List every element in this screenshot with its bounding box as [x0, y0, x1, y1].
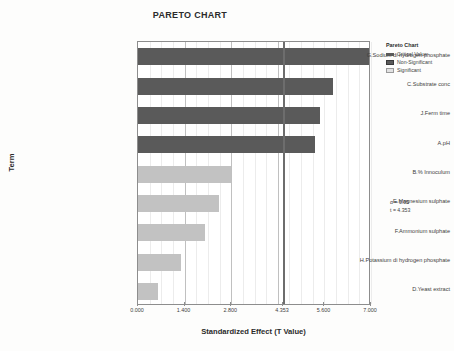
critical-swatch-icon [386, 53, 394, 56]
x-axis-tick-label: 0.000 [130, 307, 144, 313]
alpha-t-annotation: α = 0.05 t = 4.353 [390, 199, 410, 215]
x-axis-tick-mark [230, 302, 231, 306]
legend-item-label: Non-Significant [397, 59, 432, 65]
x-axis-tick-mark [184, 302, 185, 306]
y-axis-tick-label: D.Yeast extract [322, 286, 454, 292]
sig-swatch-icon [386, 68, 394, 73]
nonsig-swatch-icon [386, 60, 394, 65]
legend-items: Critical ValueNon-SignificantSignificant [386, 51, 452, 73]
legend-item-label: Critical Value [397, 51, 427, 57]
y-axis-tick-label: B.% Innoculum [322, 169, 454, 175]
x-axis-tick-mark [370, 302, 371, 306]
legend-item-label: Significant [397, 67, 421, 73]
x-axis-tick-label: 7.000 [363, 307, 377, 313]
t-value: t = 4.353 [390, 207, 410, 215]
page-title: PARETO CHART [0, 10, 380, 20]
x-axis-tick-mark [282, 302, 283, 306]
y-axis-tick-label: E.Magnesium sulphate [322, 198, 454, 204]
y-axis-tick-label: H.Potassium di hydrogen phosphate [322, 257, 454, 263]
alpha-value: α = 0.05 [390, 199, 410, 207]
x-axis-tick-labels: 0.0001.4002.8004.3535.6007.000 [137, 307, 370, 321]
x-axis-tick-label: 4.353 [275, 307, 289, 313]
y-axis-label: Term [7, 143, 16, 183]
legend-item[interactable]: Non-Significant [386, 59, 452, 65]
legend-item[interactable]: Significant [386, 67, 452, 73]
y-axis-tick-label: J.Ferm time [322, 110, 454, 116]
y-axis-tick-labels: G.Sodium di hydrogen phosphateC.Substrat… [0, 41, 454, 305]
legend-title: Pareto Chart [386, 42, 452, 48]
legend: Pareto Chart Critical ValueNon-Significa… [386, 42, 452, 75]
x-axis-tick-mark [137, 302, 138, 306]
x-axis-tick-label: 1.400 [177, 307, 191, 313]
x-axis-tick-mark [323, 302, 324, 306]
y-axis-tick-label: F.Ammonium sulphate [322, 228, 454, 234]
x-axis-label: Standardized Effect (T Value) [137, 327, 370, 336]
legend-item[interactable]: Critical Value [386, 51, 452, 57]
x-axis-tick-label: 2.800 [223, 307, 237, 313]
y-axis-tick-label: A.pH [322, 140, 454, 146]
x-axis-tick-label: 5.600 [317, 307, 331, 313]
y-axis-tick-label: C.Substrate conc [322, 81, 454, 87]
